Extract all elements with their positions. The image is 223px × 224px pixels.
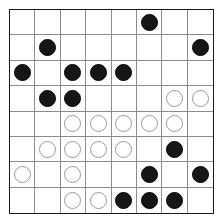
board-cell-r7c4[interactable] [86,162,111,187]
board-cell-r2c3[interactable] [61,35,86,60]
white-disc-icon [115,115,132,132]
white-disc-icon [115,141,132,158]
board-cell-r7c8[interactable] [188,162,213,187]
board-cell-r2c7[interactable] [162,35,187,60]
board-cell-r3c4[interactable] [86,61,111,86]
board-cell-r6c4[interactable] [86,137,111,162]
board-cell-r5c7[interactable] [162,112,187,137]
board-cell-r1c8[interactable] [188,10,213,35]
white-disc-icon [90,192,107,209]
board-cell-r4c8[interactable] [188,86,213,111]
board-cell-r5c6[interactable] [137,112,162,137]
board-cell-r2c8[interactable] [188,35,213,60]
board-cell-r4c2[interactable] [35,86,60,111]
board-cell-r4c6[interactable] [137,86,162,111]
board-cell-r8c7[interactable] [162,188,187,213]
board-cell-r1c2[interactable] [35,10,60,35]
board-cell-r2c5[interactable] [112,35,137,60]
board-cell-r5c4[interactable] [86,112,111,137]
board-cell-r4c5[interactable] [112,86,137,111]
black-disc-icon [192,39,209,56]
white-disc-icon [90,115,107,132]
board-cell-r6c8[interactable] [188,137,213,162]
black-disc-icon [115,192,132,209]
white-disc-icon [39,141,56,158]
board-cell-r3c5[interactable] [112,61,137,86]
white-disc-icon [166,115,183,132]
black-disc-icon [90,64,107,81]
board-cell-r3c6[interactable] [137,61,162,86]
black-disc-icon [141,166,158,183]
board-cell-r1c3[interactable] [61,10,86,35]
board-cell-r8c3[interactable] [61,188,86,213]
white-disc-icon [14,166,31,183]
black-disc-icon [14,64,31,81]
board-cell-r3c2[interactable] [35,61,60,86]
board-cell-r6c7[interactable] [162,137,187,162]
board-cell-r4c7[interactable] [162,86,187,111]
board-cell-r6c2[interactable] [35,137,60,162]
board-cell-r4c1[interactable] [10,86,35,111]
board-cell-r4c3[interactable] [61,86,86,111]
board-cell-r7c5[interactable] [112,162,137,187]
black-disc-icon [166,192,183,209]
board-cell-r2c1[interactable] [10,35,35,60]
board-cell-r6c3[interactable] [61,137,86,162]
board-cell-r8c6[interactable] [137,188,162,213]
board-cell-r8c8[interactable] [188,188,213,213]
black-disc-icon [192,166,209,183]
white-disc-icon [90,141,107,158]
board-cell-r3c1[interactable] [10,61,35,86]
black-disc-icon [166,141,183,158]
board-cell-r2c2[interactable] [35,35,60,60]
board-cell-r5c2[interactable] [35,112,60,137]
board-cell-r1c7[interactable] [162,10,187,35]
black-disc-icon [64,90,81,107]
white-disc-icon [64,166,81,183]
board-cell-r2c4[interactable] [86,35,111,60]
white-disc-icon [141,115,158,132]
white-disc-icon [166,90,183,107]
white-disc-icon [64,115,81,132]
white-disc-icon [192,90,209,107]
board-cell-r7c3[interactable] [61,162,86,187]
board-cell-r3c8[interactable] [188,61,213,86]
board-cell-r1c5[interactable] [112,10,137,35]
black-disc-icon [39,90,56,107]
board-cell-r7c6[interactable] [137,162,162,187]
board-container [0,0,223,224]
black-disc-icon [64,64,81,81]
board-cell-r7c7[interactable] [162,162,187,187]
white-disc-icon [64,141,81,158]
black-disc-icon [115,64,132,81]
black-disc-icon [39,39,56,56]
board-cell-r7c1[interactable] [10,162,35,187]
white-disc-icon [64,192,81,209]
board-cell-r7c2[interactable] [35,162,60,187]
board-cell-r2c6[interactable] [137,35,162,60]
board-cell-r8c4[interactable] [86,188,111,213]
board-cell-r6c6[interactable] [137,137,162,162]
board-cell-r5c8[interactable] [188,112,213,137]
board-cell-r6c5[interactable] [112,137,137,162]
board-cell-r8c2[interactable] [35,188,60,213]
black-disc-icon [141,192,158,209]
game-board-grid[interactable] [9,9,214,214]
board-cell-r1c6[interactable] [137,10,162,35]
board-cell-r4c4[interactable] [86,86,111,111]
black-disc-icon [141,14,158,31]
board-cell-r6c1[interactable] [10,137,35,162]
board-cell-r5c1[interactable] [10,112,35,137]
board-cell-r3c3[interactable] [61,61,86,86]
board-cell-r5c5[interactable] [112,112,137,137]
board-cell-r8c1[interactable] [10,188,35,213]
board-cell-r3c7[interactable] [162,61,187,86]
board-cell-r1c1[interactable] [10,10,35,35]
board-cell-r1c4[interactable] [86,10,111,35]
board-cell-r8c5[interactable] [112,188,137,213]
board-cell-r5c3[interactable] [61,112,86,137]
